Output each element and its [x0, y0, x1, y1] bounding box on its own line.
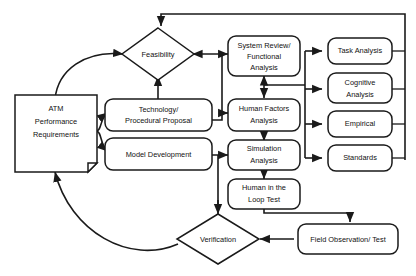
node-system-review-functional-analysis[interactable]: System Review/ Functional Analysis	[228, 36, 300, 76]
node-verification-label: Verification	[200, 235, 236, 244]
node-cognitive-label-1: Cognitive	[345, 78, 376, 87]
node-model-label: Model Development	[126, 150, 192, 159]
node-empirical[interactable]: Empirical	[328, 111, 392, 137]
node-technology-procedural-proposal[interactable]: Technology/ Procedural Proposal	[105, 99, 212, 131]
node-task-analysis[interactable]: Task Analysis	[328, 38, 392, 64]
node-technology-label-2: Procedural Proposal	[125, 116, 192, 125]
node-cognitive-label-2: Analysis	[346, 90, 374, 99]
node-human-factors-label-2: Analysis	[250, 116, 278, 125]
node-cognitive-analysis[interactable]: Cognitive Analysis	[328, 73, 392, 103]
node-system-review-label-1: System Review/	[238, 41, 292, 50]
node-loop-test-label-2: Loop Test	[248, 195, 280, 204]
node-human-factors-analysis[interactable]: Human Factors Analysis	[228, 99, 300, 131]
node-system-review-label-2: Functional	[247, 52, 281, 61]
node-field-observation-label: Field Observation/ Test	[310, 235, 385, 244]
node-standards[interactable]: Standards	[328, 145, 392, 171]
node-simulation-analysis[interactable]: Simulation Analysis	[228, 140, 300, 170]
node-atm-label-3: Requirements	[33, 130, 79, 139]
flowchart-diagram: ATM Performance Requirements Feasibility…	[0, 0, 416, 276]
node-empirical-label: Empirical	[345, 119, 376, 128]
node-loop-test-label-1: Human in the	[242, 183, 286, 192]
node-simulation-label-1: Simulation	[247, 144, 282, 153]
node-field-observation-test[interactable]: Field Observation/ Test	[298, 224, 398, 254]
node-human-factors-label-1: Human Factors	[239, 104, 290, 113]
node-standards-label: Standards	[343, 153, 377, 162]
node-system-review-label-3: Analysis	[250, 63, 278, 72]
node-simulation-label-2: Analysis	[250, 156, 278, 165]
node-model-development[interactable]: Model Development	[105, 138, 212, 170]
node-atm-label-1: ATM	[48, 104, 63, 113]
node-atm-label-2: Performance	[35, 117, 77, 126]
node-atm-performance-requirements[interactable]: ATM Performance Requirements	[15, 95, 97, 172]
node-technology-label-1: Technology/	[139, 105, 179, 114]
node-task-analysis-label: Task Analysis	[338, 46, 383, 55]
node-feasibility-label: Feasibility	[142, 50, 175, 59]
node-human-in-the-loop-test[interactable]: Human in the Loop Test	[228, 179, 300, 209]
